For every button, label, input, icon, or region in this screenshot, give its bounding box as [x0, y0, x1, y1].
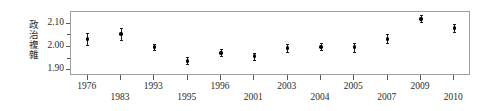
error-bar-cap-lower — [86, 45, 89, 46]
data-point-marker — [119, 32, 123, 36]
error-bar-cap-lower — [153, 50, 156, 51]
chart-figure: 政治複雜 1.902.002.10 1976198319931995199620… — [0, 0, 483, 111]
error-bar-cap-lower — [420, 22, 423, 23]
x-axis-tick-label: 2007 — [367, 92, 407, 102]
error-bar-cap-upper — [386, 34, 389, 35]
x-axis-tick-label: 1995 — [167, 92, 207, 102]
error-bar-cap-lower — [353, 52, 356, 53]
error-bar-cap-lower — [186, 64, 189, 65]
plot-area — [70, 11, 470, 75]
y-axis-tick-label: 2.10 — [38, 18, 64, 28]
data-point-marker — [386, 37, 390, 41]
data-point-marker — [419, 17, 423, 21]
data-point-marker — [186, 59, 190, 63]
y-axis-tick-label: 1.90 — [38, 64, 64, 74]
error-bar-cap-upper — [120, 28, 123, 29]
data-point-marker — [286, 46, 290, 50]
x-axis-tick-labels: 1976198319931995199620012003200420052007… — [70, 80, 470, 111]
error-bar-cap-lower — [120, 40, 123, 41]
x-axis-tick-label: 2004 — [300, 92, 340, 102]
error-bar-cap-upper — [453, 24, 456, 25]
error-bar-cap-lower — [286, 52, 289, 53]
x-axis-tick-label: 1996 — [200, 81, 240, 91]
y-axis-tick-labels: 1.902.002.10 — [38, 0, 64, 111]
data-point-marker — [353, 45, 357, 49]
y-axis-title: 政治複雜 — [24, 14, 38, 66]
x-axis-tick-label: 2010 — [433, 92, 473, 102]
x-axis-tick-label: 1993 — [133, 81, 173, 91]
data-point-marker — [453, 26, 457, 30]
data-point-marker — [219, 51, 223, 55]
data-point-marker — [253, 54, 257, 58]
error-bar-cap-lower — [220, 56, 223, 57]
error-bar-cap-lower — [253, 60, 256, 61]
error-bar-cap-upper — [86, 33, 89, 34]
error-bar-cap-lower — [453, 32, 456, 33]
error-bar-cap-upper — [286, 44, 289, 45]
error-bar-cap-lower — [320, 50, 323, 51]
error-bar-cap-upper — [353, 43, 356, 44]
x-axis-tick-label: 2003 — [267, 81, 307, 91]
x-axis-tick-label: 2005 — [333, 81, 373, 91]
y-axis-tick-label: 2.00 — [38, 41, 64, 51]
data-point-marker — [153, 45, 157, 49]
x-axis-tick-label: 1983 — [100, 92, 140, 102]
data-point-marker — [319, 45, 323, 49]
x-axis-tick-label: 2001 — [233, 92, 273, 102]
x-axis-tick-label: 2009 — [400, 81, 440, 91]
error-bar-cap-lower — [386, 43, 389, 44]
data-point-marker — [86, 37, 90, 41]
x-axis-tick-label: 1976 — [67, 81, 107, 91]
